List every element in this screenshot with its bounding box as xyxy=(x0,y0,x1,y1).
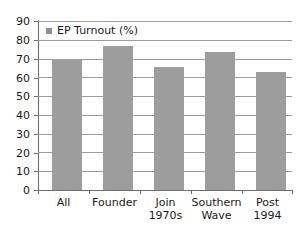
y-axis-label-40: 40 xyxy=(0,110,30,121)
bar-southern-wave[interactable] xyxy=(205,52,235,190)
chart-legend: EP Turnout (%) xyxy=(44,24,142,38)
x-tick-4 xyxy=(242,190,243,194)
y-axis-label-0: 0 xyxy=(0,185,30,196)
x-axis-label-founder: Founder xyxy=(89,196,140,209)
x-axis-label-post-1994-line1: Post xyxy=(256,196,279,209)
bar-all[interactable] xyxy=(52,59,82,190)
x-axis-label-founder-line1: Founder xyxy=(92,196,137,209)
x-axis-label-southern-wave-line1: Southern xyxy=(191,196,241,209)
y-axis-label-70: 70 xyxy=(0,54,30,65)
x-axis-labels: All Founder Join 1970s Southern Wave Pos… xyxy=(38,196,292,228)
x-axis-label-join-1970s-line2: 1970s xyxy=(140,209,191,222)
x-axis-label-join-1970s: Join 1970s xyxy=(140,196,191,222)
x-axis-label-post-1994: Post 1994 xyxy=(242,196,293,222)
x-tick-2 xyxy=(140,190,141,194)
x-axis-label-southern-wave-line2: Wave xyxy=(191,209,242,222)
x-tick-0 xyxy=(38,190,39,194)
x-axis-label-southern-wave: Southern Wave xyxy=(191,196,242,222)
x-tick-5 xyxy=(292,190,293,194)
x-axis-label-join-1970s-line1: Join xyxy=(155,196,175,209)
y-axis-label-20: 20 xyxy=(0,148,30,159)
x-tick-3 xyxy=(191,190,192,194)
y-axis-label-30: 30 xyxy=(0,129,30,140)
gridline-baseline-0 xyxy=(38,190,292,191)
x-axis-label-all: All xyxy=(38,196,89,209)
legend-label-ep-turnout: EP Turnout (%) xyxy=(57,25,138,37)
y-axis-label-60: 60 xyxy=(0,73,30,84)
bar-post-1994[interactable] xyxy=(256,72,286,190)
y-axis-label-80: 80 xyxy=(0,35,30,46)
x-axis-label-post-1994-line2: 1994 xyxy=(242,209,293,222)
x-tick-1 xyxy=(89,190,90,194)
bars-layer xyxy=(38,21,292,190)
bar-join-1970s[interactable] xyxy=(154,67,184,190)
y-axis-label-50: 50 xyxy=(0,91,30,102)
bar-founder[interactable] xyxy=(103,46,133,190)
legend-swatch-icon xyxy=(46,28,52,34)
x-axis-label-all-line1: All xyxy=(57,196,71,209)
y-axis-label-90: 90 xyxy=(0,16,30,27)
y-axis-label-10: 10 xyxy=(0,166,30,177)
ep-turnout-bar-chart: 90 80 70 60 50 40 30 20 10 0 xyxy=(0,0,302,229)
